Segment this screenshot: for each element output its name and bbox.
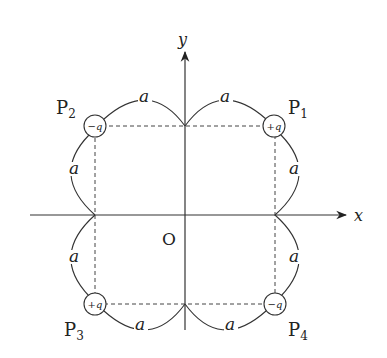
x-axis-label: x [354,206,363,225]
side-label-top-right: a [220,86,230,106]
side-label-left-upper: a [69,158,79,178]
point-label-p1: P1 [288,97,308,121]
charge-label-p1: +q [267,121,282,132]
point-label-p2: P2 [56,97,76,121]
charge-p4: −q [264,293,286,315]
side-label-bottom-right: a [225,314,235,334]
charge-p1: +q [263,115,285,137]
side-label-left-lower: a [69,246,79,266]
y-axis-label: y [177,30,188,49]
side-label-right-lower: a [289,246,299,266]
charge-label-p3: +q [88,299,103,310]
side-label-top-left: a [139,86,149,106]
origin-label: O [162,229,176,249]
diagram-svg: x y O a a a a a a a a +q − [0,0,387,358]
charge-p2: −q [84,115,106,137]
point-label-p3: P3 [64,319,84,343]
point-label-p4: P4 [288,319,308,343]
charge-label-p2: −q [88,121,103,132]
side-label-right-upper: a [289,158,299,178]
charge-p3: +q [84,293,106,315]
diagram: x y O a a a a a a a a +q − [0,0,387,358]
charge-label-p4: −q [268,299,283,310]
side-label-bottom-left: a [135,314,145,334]
